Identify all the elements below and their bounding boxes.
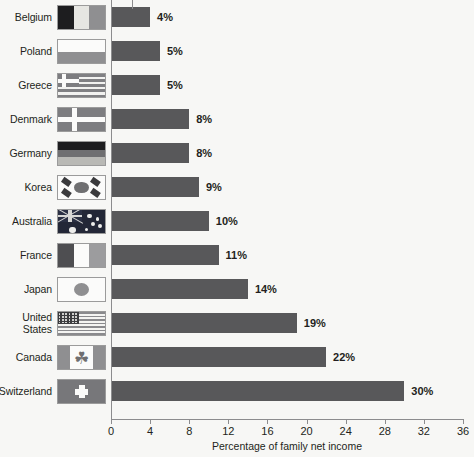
flag-poland-icon — [57, 39, 106, 64]
country-label: Switzerland — [0, 374, 52, 408]
country-label-line: States — [23, 323, 52, 336]
bar — [111, 245, 219, 265]
chart-row: Japan14% — [0, 272, 474, 306]
bar-value-label: 22% — [333, 347, 355, 367]
country-label: Canada — [0, 340, 52, 374]
chart-row: Denmark8% — [0, 102, 474, 136]
flag-germany-icon — [57, 141, 106, 166]
flag-switzerland-icon — [57, 379, 106, 404]
country-label-line: Korea — [24, 181, 52, 193]
flag-graphic — [58, 278, 105, 301]
flag-graphic — [58, 142, 105, 165]
flag-graphic — [58, 74, 105, 97]
country-label: UnitedStates — [0, 306, 52, 340]
country-label: Japan — [0, 272, 52, 306]
x-axis-tick-label: 12 — [213, 425, 243, 437]
x-axis-tick-label: 0 — [96, 425, 126, 437]
country-label-line: United — [22, 311, 52, 324]
flag-australia-icon — [57, 209, 106, 234]
x-axis-tick — [150, 419, 151, 424]
x-axis-tick-label: 24 — [331, 425, 361, 437]
x-axis-tick — [307, 419, 308, 424]
country-label-line: Canada — [16, 351, 52, 363]
flag-graphic — [58, 40, 105, 63]
flag-graphic — [58, 210, 105, 233]
bar — [111, 7, 150, 27]
bar-value-label: 9% — [206, 177, 222, 197]
bar-value-label: 14% — [255, 279, 277, 299]
x-axis-tick — [346, 419, 347, 424]
x-axis-tick-label: 4 — [135, 425, 165, 437]
flag-denmark-icon — [57, 107, 106, 132]
x-axis-tick-label: 16 — [252, 425, 282, 437]
bar — [111, 279, 248, 299]
bar-value-label: 10% — [216, 211, 238, 231]
x-axis-tick — [424, 419, 425, 424]
bar — [111, 143, 189, 163]
bar — [111, 211, 209, 231]
bar-value-label: 8% — [196, 143, 212, 163]
country-label-line: Greece — [18, 79, 52, 91]
x-axis-tick — [385, 419, 386, 424]
y-axis-line — [111, 0, 112, 419]
bar — [111, 347, 326, 367]
flag-graphic: ☘ — [58, 346, 105, 369]
flag-france-icon — [57, 243, 106, 268]
x-axis-tick-label: 32 — [409, 425, 439, 437]
country-label: Denmark — [0, 102, 52, 136]
x-axis-tick-label: 8 — [174, 425, 204, 437]
chart-row: UnitedStates19% — [0, 306, 474, 340]
flag-japan-icon — [57, 277, 106, 302]
chart-row: France11% — [0, 238, 474, 272]
chart-row: Canada☘22% — [0, 340, 474, 374]
country-label-line: Switzerland — [0, 385, 52, 397]
chart-row: Poland5% — [0, 34, 474, 68]
country-label: Poland — [0, 34, 52, 68]
bar-value-label: 30% — [411, 381, 433, 401]
flag-graphic — [58, 244, 105, 267]
country-label: France — [0, 238, 52, 272]
bar-value-label: 5% — [167, 41, 183, 61]
flag-belgium-icon — [57, 5, 106, 30]
country-label: Germany — [0, 136, 52, 170]
bar-chart: Belgium4%Poland5%Greece5%Denmark8%German… — [0, 0, 474, 457]
bar-value-label: 4% — [157, 7, 173, 27]
x-axis-title: Percentage of family net income — [111, 440, 463, 452]
country-label-line: Japan — [24, 283, 52, 295]
bar-value-label: 19% — [304, 313, 326, 333]
country-label: Greece — [0, 68, 52, 102]
country-label-line: Australia — [12, 215, 52, 227]
bar — [111, 381, 404, 401]
x-axis-tick-label: 28 — [370, 425, 400, 437]
country-label-line: Belgium — [15, 11, 52, 23]
axis-top-tick — [132, 0, 133, 9]
chart-row: Greece5% — [0, 68, 474, 102]
x-axis-tick — [463, 419, 464, 424]
maple-leaf-icon: ☘ — [74, 349, 89, 366]
flag-graphic — [58, 108, 105, 131]
bar — [111, 313, 297, 333]
x-axis-tick-label: 20 — [292, 425, 322, 437]
chart-row: Australia10% — [0, 204, 474, 238]
country-label-line: Denmark — [10, 113, 52, 125]
flag-graphic — [58, 176, 105, 199]
bar-value-label: 11% — [226, 245, 247, 265]
chart-row: Germany8% — [0, 136, 474, 170]
x-axis-tick-label: 36 — [448, 425, 474, 437]
x-axis-tick — [267, 419, 268, 424]
flag-korea-icon — [57, 175, 106, 200]
flag-graphic — [58, 312, 105, 335]
country-label: Korea — [0, 170, 52, 204]
chart-row: Korea9% — [0, 170, 474, 204]
country-label-line: France — [20, 249, 52, 261]
x-axis-tick — [228, 419, 229, 424]
x-axis-tick — [111, 419, 112, 424]
flag-greece-icon — [57, 73, 106, 98]
country-label: Australia — [0, 204, 52, 238]
x-axis-tick — [189, 419, 190, 424]
flag-graphic — [58, 6, 105, 29]
bar-value-label: 8% — [196, 109, 212, 129]
bar — [111, 177, 199, 197]
bar-value-label: 5% — [167, 75, 183, 95]
flag-usa-icon — [57, 311, 106, 336]
